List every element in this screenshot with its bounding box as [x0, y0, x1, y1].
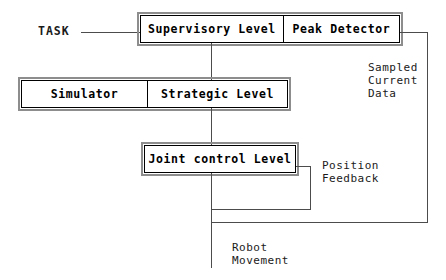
robot-movement-label: Robot Movement: [232, 241, 289, 267]
joint-feedback-out-connector: [296, 166, 311, 167]
strategic-row-box: Simulator Strategic Level: [21, 80, 288, 108]
simulator-cell[interactable]: Simulator: [22, 81, 147, 107]
peak-detector-output-connector: [400, 32, 428, 33]
task-label: TASK: [38, 25, 70, 38]
robot-to-sampled-data-return-connector: [211, 222, 428, 223]
supervisory-level-cell[interactable]: Supervisory Level: [141, 16, 283, 42]
supervisory-row-box: Supervisory Level Peak Detector: [140, 15, 400, 43]
strategic-level-cell[interactable]: Strategic Level: [147, 81, 287, 107]
sampled-current-data-bus: [427, 32, 428, 223]
sampled-current-data-label: Sampled Current Data: [368, 61, 418, 100]
peak-detector-cell[interactable]: Peak Detector: [283, 16, 399, 42]
block-diagram: TASK Supervisory Level Peak Detector Sam…: [0, 0, 446, 280]
joint-to-robot-movement-connector: [211, 173, 212, 268]
joint-control-level-cell[interactable]: Joint control Level: [145, 146, 295, 172]
strategic-to-joint-connector: [211, 108, 212, 146]
supervisory-to-strategic-connector: [211, 43, 212, 81]
position-feedback-return-connector: [211, 209, 311, 210]
position-feedback-label: Position Feedback: [322, 159, 379, 185]
position-feedback-down-connector: [310, 166, 311, 210]
joint-row-box: Joint control Level: [144, 145, 296, 173]
task-to-supervisory-connector: [81, 32, 141, 33]
